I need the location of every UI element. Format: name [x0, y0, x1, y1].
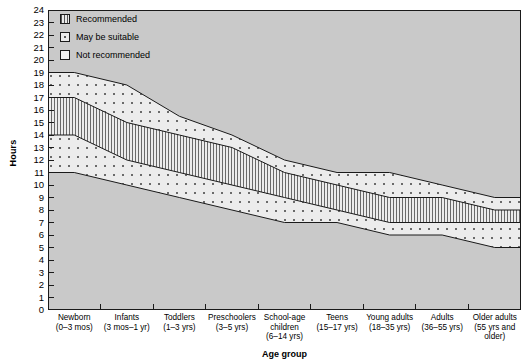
- x-category-range: (15–17 yrs): [312, 323, 363, 333]
- y-tick-label: 24: [22, 5, 44, 15]
- y-tick-label: 4: [22, 255, 44, 265]
- y-tick-label: 21: [22, 43, 44, 53]
- y-tick-label: 6: [22, 230, 44, 240]
- y-tick-label: 13: [22, 143, 44, 153]
- legend-item: May be suitable: [60, 31, 150, 42]
- x-category-name: Teens: [312, 313, 363, 323]
- x-category-range: (55 yrs and: [470, 323, 521, 333]
- sleep-duration-chart: Hours 0123456789101112131415161718192021…: [0, 0, 527, 362]
- legend-swatch-plain: [60, 50, 70, 60]
- x-category-name: School-age: [259, 313, 310, 323]
- x-category-range: (18–35 yrs): [364, 323, 415, 333]
- y-tick-label: 15: [22, 118, 44, 128]
- y-tick-label: 18: [22, 80, 44, 90]
- legend: RecommendedMay be suitableNot recommende…: [60, 13, 150, 67]
- x-category-name: Toddlers: [154, 313, 205, 323]
- x-category-name: Preschoolers: [207, 313, 258, 323]
- y-tick-label: 14: [22, 130, 44, 140]
- legend-swatch-dotted: [60, 32, 70, 42]
- y-tick-label: 7: [22, 218, 44, 228]
- y-tick-label: 12: [22, 155, 44, 165]
- y-tick-label: 1: [22, 293, 44, 303]
- y-tick-label: 17: [22, 93, 44, 103]
- y-tick-label: 3: [22, 268, 44, 278]
- x-category-range: (0–3 mos): [49, 323, 100, 333]
- x-category-range: (1–3 yrs): [154, 323, 205, 333]
- y-tick-label: 22: [22, 30, 44, 40]
- y-tick-label: 8: [22, 205, 44, 215]
- x-category-range: (3–5 yrs): [207, 323, 258, 333]
- y-tick-label: 9: [22, 193, 44, 203]
- y-tick-label: 19: [22, 68, 44, 78]
- x-category-name: Newborn: [49, 313, 100, 323]
- x-category-name: Older adults: [470, 313, 521, 323]
- x-category-range: children: [259, 323, 310, 333]
- x-category-range: (3 mos–1 yr): [102, 323, 153, 333]
- y-tick-label: 11: [22, 168, 44, 178]
- y-tick-label: 2: [22, 280, 44, 290]
- y-tick-label: 23: [22, 18, 44, 28]
- y-tick-label: 20: [22, 55, 44, 65]
- legend-item: Not recommended: [60, 49, 150, 60]
- y-axis-tick-labels: 0123456789101112131415161718192021222324: [0, 0, 44, 362]
- y-tick-label: 5: [22, 243, 44, 253]
- legend-label: May be suitable: [76, 32, 139, 42]
- y-tick-label: 10: [22, 180, 44, 190]
- x-category-name: Infants: [102, 313, 153, 323]
- x-category-range: older): [470, 332, 521, 342]
- y-tick-label: 0: [22, 305, 44, 315]
- y-tick-label: 16: [22, 105, 44, 115]
- legend-label: Recommended: [76, 14, 137, 24]
- x-category-name: Young adults: [364, 313, 415, 323]
- legend-swatch-vertical-lines: [60, 14, 70, 24]
- legend-label: Not recommended: [76, 50, 150, 60]
- x-category-range: (36–55 yrs): [417, 323, 468, 333]
- x-category-name: Adults: [417, 313, 468, 323]
- legend-item: Recommended: [60, 13, 150, 24]
- x-category-range: (6–14 yrs): [259, 332, 310, 342]
- x-axis-title: Age group: [48, 349, 521, 359]
